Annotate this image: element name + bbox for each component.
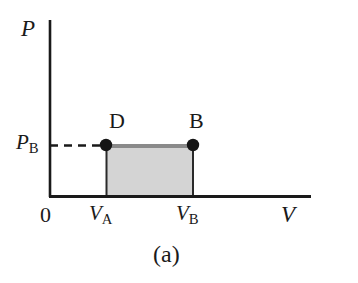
data-point-d — [100, 139, 112, 151]
figure-caption: (a) — [153, 242, 180, 266]
x-tick-label-vb-subscript: B — [189, 211, 199, 227]
shaded-work-area — [106, 146, 193, 196]
x-axis-label: V — [281, 203, 295, 226]
data-point-b — [187, 139, 199, 151]
x-tick-label-vb-base: V — [176, 201, 189, 225]
x-tick-label-va-subscript: A — [102, 211, 113, 227]
y-tick-label-pb-base: P — [16, 130, 29, 154]
point-label-b: B — [189, 110, 204, 132]
x-tick-label-va-base: V — [89, 201, 102, 225]
pv-diagram-figure: P V 0 PB VA VB D B (a) — [0, 0, 358, 283]
y-tick-label-pb: PB — [16, 132, 39, 156]
y-axis-label: P — [21, 17, 35, 40]
x-tick-label-vb: VB — [176, 203, 199, 227]
y-tick-label-pb-subscript: B — [29, 140, 39, 156]
origin-label: 0 — [40, 204, 51, 226]
point-label-d: D — [109, 110, 125, 132]
x-tick-label-va: VA — [89, 203, 112, 227]
